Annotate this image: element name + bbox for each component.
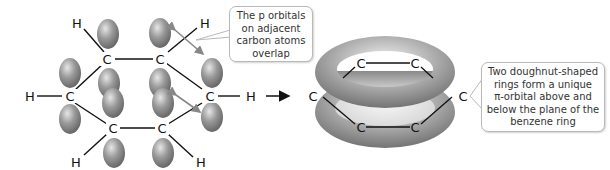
left-atom-labels: C C C C C C H H H H H H [25, 16, 256, 170]
svg-text:C: C [356, 56, 365, 71]
svg-text:C: C [356, 120, 365, 135]
svg-text:C: C [65, 89, 74, 104]
svg-text:H: H [246, 89, 256, 104]
svg-text:C: C [157, 121, 166, 136]
svg-text:H: H [71, 155, 81, 170]
svg-text:C: C [108, 121, 117, 136]
svg-text:H: H [25, 89, 35, 104]
svg-text:H: H [200, 16, 210, 31]
svg-text:H: H [72, 16, 82, 31]
svg-text:C: C [410, 56, 419, 71]
svg-text:C: C [155, 52, 164, 67]
benzene-diagram: C C C C C C H H H H H H [0, 0, 610, 170]
overlap-arrow-bottom [176, 95, 200, 112]
svg-text:H: H [196, 155, 206, 170]
svg-text:C: C [458, 89, 467, 104]
svg-text:C: C [205, 89, 214, 104]
callout-pi-orbital: Two doughnut-shaped rings form a unique … [481, 62, 605, 132]
pi-orbital-rings [315, 36, 455, 148]
svg-text:C: C [308, 89, 317, 104]
svg-text:C: C [410, 120, 419, 135]
callout-p-orbitals: The p orbitals on adjacent carbon atoms … [229, 6, 313, 62]
p-orbital-lobes [59, 18, 223, 168]
svg-text:C: C [102, 52, 111, 67]
